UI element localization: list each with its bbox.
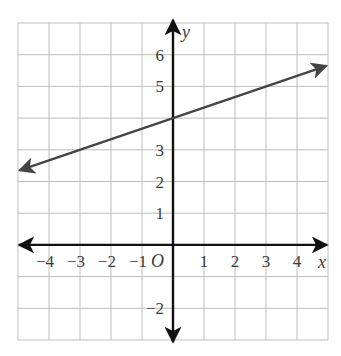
y-axis-label: y [180, 22, 190, 42]
origin-label: O [151, 251, 164, 271]
x-tick-label: −2 [98, 252, 116, 271]
x-tick-label: −3 [67, 252, 85, 271]
y-tick-label: 2 [156, 173, 165, 192]
y-tick-label: 3 [156, 141, 165, 160]
y-tick-label: −2 [146, 299, 164, 318]
x-tick-label: 2 [231, 252, 240, 271]
x-tick-label: −4 [36, 252, 55, 271]
coordinate-plane: −4−3−2−1123465321−2Oxy [0, 0, 341, 356]
y-tick-label: 6 [156, 46, 165, 65]
x-tick-label: 3 [262, 252, 271, 271]
y-tick-label: 1 [156, 204, 165, 223]
x-tick-label: 1 [200, 252, 209, 271]
tick-labels: −4−3−2−1123465321−2Oxy [36, 22, 326, 318]
y-tick-label: 5 [156, 77, 165, 96]
x-axis-label: x [317, 252, 326, 272]
x-tick-label: −1 [129, 252, 147, 271]
x-tick-label: 4 [293, 252, 302, 271]
